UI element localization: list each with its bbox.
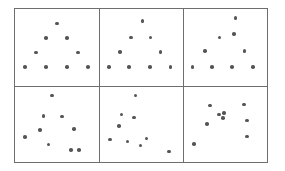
data-point (126, 140, 130, 144)
data-point (139, 144, 143, 148)
data-point (191, 65, 195, 69)
data-point (141, 19, 145, 23)
data-point (42, 114, 46, 118)
data-point (86, 65, 90, 69)
data-point (167, 150, 171, 154)
data-point (245, 119, 249, 123)
data-point (242, 103, 246, 107)
data-point (72, 127, 76, 131)
data-point (203, 49, 207, 53)
data-point (251, 65, 255, 69)
data-point (230, 65, 234, 69)
data-point (134, 94, 138, 98)
data-point (38, 128, 42, 132)
data-point (243, 49, 247, 53)
data-point (118, 50, 122, 54)
data-point (108, 138, 112, 142)
data-point (145, 137, 149, 141)
data-point (234, 16, 238, 20)
data-point (210, 65, 214, 69)
data-point (129, 36, 133, 40)
panel-grid (14, 8, 268, 163)
data-point (148, 65, 152, 69)
data-point (55, 22, 59, 26)
data-point (107, 65, 111, 69)
data-point (217, 113, 221, 117)
scatter-panel-4 (15, 86, 99, 163)
data-point (159, 50, 163, 54)
data-point (221, 116, 225, 120)
data-point (23, 65, 27, 69)
data-point (44, 36, 48, 40)
scatter-panel-3 (183, 9, 267, 86)
data-point (232, 32, 236, 36)
data-point (77, 148, 81, 152)
data-point (60, 115, 64, 119)
data-point (218, 36, 222, 40)
scatter-panel-6 (183, 86, 267, 163)
data-point (222, 111, 226, 115)
data-point (76, 51, 80, 55)
data-point (132, 116, 136, 120)
scatter-panel-5 (99, 86, 183, 163)
data-point (205, 122, 209, 126)
scatter-panel-1 (15, 9, 99, 86)
data-point (245, 135, 249, 139)
data-point (127, 65, 131, 69)
data-point (117, 124, 121, 128)
data-point (69, 148, 73, 152)
data-point (208, 104, 212, 108)
data-point (23, 135, 27, 139)
data-point (44, 65, 48, 69)
data-point (34, 51, 38, 55)
data-point (65, 65, 69, 69)
data-point (169, 65, 173, 69)
data-point (47, 143, 51, 147)
figure-root (0, 0, 285, 171)
data-point (149, 36, 153, 40)
data-point (192, 142, 196, 146)
data-point (50, 94, 54, 98)
scatter-panel-2 (99, 9, 183, 86)
data-point (120, 113, 124, 117)
data-point (65, 36, 69, 40)
